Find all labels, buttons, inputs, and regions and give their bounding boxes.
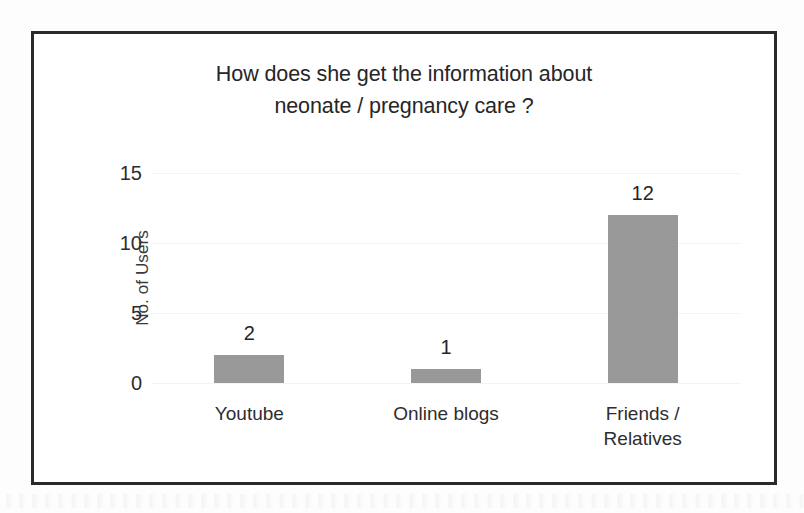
chart-title: How does she get the information about n… [34, 58, 774, 122]
chart-title-line-1: How does she get the information about [34, 58, 774, 90]
bar-friends-relatives[interactable] [608, 215, 678, 383]
bar-series: 2 Youtube 1 Online blogs 12 [151, 173, 741, 383]
scan-artifact-noise [0, 494, 804, 508]
bar-value-friends-relatives: 12 [544, 183, 741, 203]
chart-title-line-2: neonate / pregnancy care ? [34, 90, 774, 122]
bar-slot-online-blogs: 1 Online blogs [348, 173, 545, 383]
bar-online-blogs[interactable] [411, 369, 481, 383]
plot-area: No. of Users 15 10 5 0 2 Youtube [151, 173, 741, 383]
category-label-friends-relatives: Friends / Relatives [524, 401, 761, 451]
bar-value-youtube: 2 [151, 323, 348, 343]
scanned-page-background: How does she get the information about n… [0, 0, 804, 513]
bar-slot-friends-relatives: 12 Friends / Relatives [544, 173, 741, 383]
chart-frame: How does she get the information about n… [31, 31, 777, 485]
y-tick-label-0: 0 [131, 373, 142, 393]
category-label-friends-relatives-line-2: Relatives [524, 426, 761, 451]
y-tick-label-10: 10 [120, 233, 142, 253]
y-tick-label-5: 5 [131, 303, 142, 323]
category-label-friends-relatives-line-1: Friends / [524, 401, 761, 426]
gridline-0 [151, 383, 741, 384]
y-tick-label-15: 15 [120, 163, 142, 183]
bar-slot-youtube: 2 Youtube [151, 173, 348, 383]
bar-value-online-blogs: 1 [348, 337, 545, 357]
bar-youtube[interactable] [214, 355, 284, 383]
